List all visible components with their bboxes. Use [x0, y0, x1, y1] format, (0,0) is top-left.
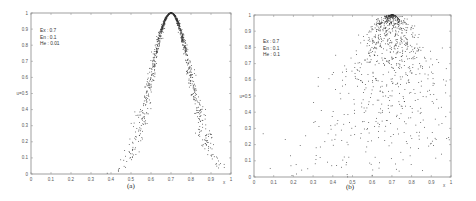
x-tick-label: 0.6: [148, 177, 155, 182]
y-tick-label: 1: [25, 11, 28, 16]
legend-entry: Ex : 0.7: [40, 28, 57, 33]
x-tick-label: 0.1: [48, 177, 55, 182]
chart-panel-b: 00.10.20.30.40.50.60.70.80.9100.10.20.30…: [238, 0, 476, 201]
y-tick-label: 0.6: [245, 77, 252, 82]
y-tick-label: 0.9: [245, 29, 252, 34]
x-tick-label: 0.9: [208, 177, 215, 182]
axes: 00.10.20.30.40.50.60.70.80.9100.10.20.30…: [240, 13, 453, 189]
x-tick-label: 0.9: [428, 180, 435, 185]
x-tick-label: 1: [230, 177, 233, 182]
x-tick-label: 0.6: [369, 180, 376, 185]
x-tick-label: 0.1: [271, 180, 278, 185]
y-tick-label: 0.1: [245, 158, 252, 163]
y-tick-label: 0.4: [245, 110, 252, 115]
axes: 00.10.20.30.40.50.60.70.80.9100.10.20.30…: [17, 11, 233, 186]
legend-entry: He : 0.01: [40, 41, 60, 46]
y-tick-label: 0.1: [22, 155, 29, 160]
x-tick-label: 0.7: [389, 180, 396, 185]
y-tick-label: 0.2: [22, 139, 29, 144]
scatter-points: [107, 13, 225, 174]
x-tick-label: 0.4: [108, 177, 115, 182]
x-tick-label: 0.8: [188, 177, 195, 182]
panel-caption-b: (b): [346, 183, 354, 191]
x-tick-label: 0.7: [168, 177, 175, 182]
y-tick-label: 0.3: [22, 123, 29, 128]
y-tick-label: 1: [248, 13, 251, 18]
y-tick-label: 0: [248, 175, 251, 180]
chart-panel-a: 00.10.20.30.40.50.60.70.80.9100.10.20.30…: [0, 0, 238, 201]
x-tick-label: 1: [450, 180, 453, 185]
x-tick-label: 0.4: [330, 180, 337, 185]
x-tick-label: 0.3: [310, 180, 317, 185]
y-tick-label: 0.6: [22, 75, 29, 80]
y-tick-label: 0.7: [22, 59, 29, 64]
x-tick-label: 0: [30, 177, 33, 182]
x-axis-label: x: [223, 180, 226, 185]
y-tick-label: 0.4: [22, 107, 29, 112]
legend-entry: He : 0.1: [263, 52, 280, 57]
x-tick-label: 0.2: [68, 177, 75, 182]
x-tick-label: 0: [253, 180, 256, 185]
x-axis-label: x: [443, 183, 446, 188]
x-tick-label: 0.2: [290, 180, 297, 185]
y-tick-label: 0: [25, 172, 28, 177]
y-tick-label: 0.8: [245, 45, 252, 50]
panel-caption-a: (a): [127, 182, 135, 190]
x-tick-label: 0.3: [88, 177, 95, 182]
scatter-plot-a: 00.10.20.30.40.50.60.70.80.9100.10.20.30…: [0, 0, 238, 201]
legend-entry: En : 0.1: [40, 35, 57, 40]
legend-entry: Ex : 0.7: [263, 39, 280, 44]
y-tick-label: 0.2: [245, 142, 252, 147]
y-tick-label: 0.9: [22, 27, 29, 32]
y-tick-label: 0.3: [245, 126, 252, 131]
x-tick-label: 0.8: [408, 180, 415, 185]
y-tick-label: u=0.5: [17, 91, 29, 96]
legend-entry: En : 0.1: [263, 46, 280, 51]
y-tick-label: 0.7: [245, 61, 252, 66]
scatter-plot-b: 00.10.20.30.40.50.60.70.80.9100.10.20.30…: [238, 0, 476, 201]
y-tick-label: u=0.5: [240, 94, 252, 99]
y-tick-label: 0.8: [22, 43, 29, 48]
scatter-points: [263, 15, 450, 178]
